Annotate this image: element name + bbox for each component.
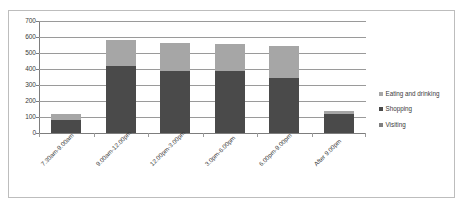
bar-slot — [257, 21, 312, 133]
chart-frame: 0100200300400500600700 7.30am-9.00am9.00… — [8, 10, 455, 198]
bar-segment[interactable] — [160, 71, 190, 133]
bar-segment[interactable] — [324, 114, 354, 133]
bar-slot — [203, 21, 258, 133]
x-tick-label: 6.00pm-9.00pm — [258, 132, 293, 167]
bar-slot — [312, 21, 367, 133]
x-tick-label: 3.0pm-6.00pm — [204, 135, 237, 168]
bar-stack[interactable] — [269, 46, 299, 133]
legend-item-label: Shopping — [386, 106, 413, 112]
bar-stack[interactable] — [106, 40, 136, 133]
legend-swatch-icon — [379, 107, 383, 111]
chart-legend: Eating and drinkingShoppingVisiting — [379, 91, 453, 137]
bar-segment[interactable] — [269, 46, 299, 78]
bar-segment[interactable] — [215, 44, 245, 70]
bar-slot — [148, 21, 203, 133]
plot-area — [39, 21, 366, 133]
x-axis-tick-labels: 7.30am-9.00am9.00am-12.00pm12.00pm-3.00p… — [39, 137, 366, 195]
bar-segment[interactable] — [106, 40, 136, 66]
x-tick-label: 7.30am-9.00am — [40, 132, 75, 167]
bar-stack[interactable] — [324, 111, 354, 133]
bar-segment[interactable] — [215, 71, 245, 133]
bar-segment[interactable] — [160, 43, 190, 72]
bar-segment[interactable] — [51, 120, 81, 133]
bar-segment[interactable] — [269, 78, 299, 133]
legend-swatch-icon — [379, 123, 383, 127]
legend-item-label: Visiting — [386, 122, 406, 128]
bar-segment[interactable] — [106, 66, 136, 133]
bar-slot — [39, 21, 94, 133]
legend-item[interactable]: Shopping — [379, 106, 453, 112]
y-axis-tick-marks — [9, 21, 39, 133]
bar-slot — [94, 21, 149, 133]
legend-item-label: Eating and drinking — [386, 91, 440, 97]
bar-stack[interactable] — [160, 43, 190, 133]
legend-swatch-icon — [379, 92, 383, 96]
x-tick-label: After 9.00pm — [313, 138, 342, 167]
bar-stack[interactable] — [51, 114, 81, 133]
legend-item[interactable]: Visiting — [379, 122, 453, 128]
legend-item[interactable]: Eating and drinking — [379, 91, 453, 97]
bar-stack[interactable] — [215, 44, 245, 133]
